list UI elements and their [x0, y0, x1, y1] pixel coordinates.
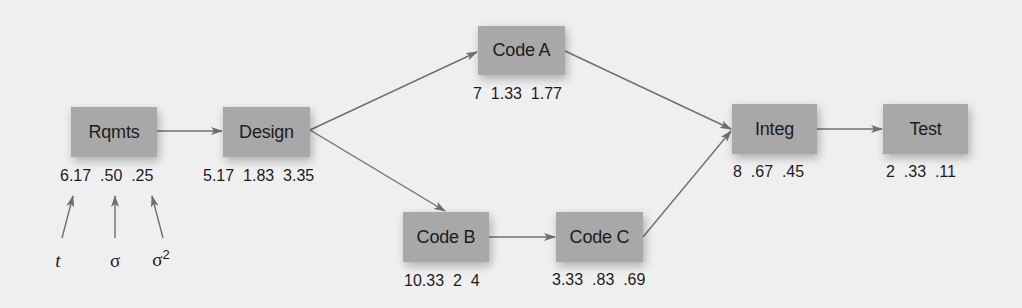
node-stats-code-b: 10.33 2 4	[404, 272, 480, 290]
variance-exponent: 2	[163, 247, 170, 262]
node-stats-test: 2 .33 .11	[886, 163, 956, 181]
edge-code-c-integ	[643, 131, 731, 237]
legend-variance-label: σ2	[152, 247, 169, 271]
legend-t-label: t	[55, 250, 60, 272]
edge-design-code-b	[310, 130, 445, 211]
node-stats-code-c: 3.33 .83 .69	[552, 271, 645, 289]
node-label: Code B	[417, 227, 476, 248]
node-code-c: Code C	[556, 212, 643, 262]
legend-arrow-variance	[152, 196, 163, 238]
edge-design-code-a	[310, 52, 477, 130]
node-label: Rqmts	[88, 122, 139, 143]
node-code-a: Code A	[478, 26, 565, 75]
node-label: Code C	[570, 227, 630, 248]
node-code-b: Code B	[403, 212, 489, 262]
legend-arrow-t	[62, 196, 73, 238]
node-label: Test	[909, 119, 941, 140]
node-test: Test	[883, 104, 968, 154]
node-stats-design: 5.17 1.83 3.35	[203, 167, 314, 185]
node-label: Code A	[493, 40, 551, 61]
activity-network-diagram: Rqmts 6.17 .50 .25 Design 5.17 1.83 3.35…	[0, 0, 1022, 308]
node-stats-rqmts: 6.17 .50 .25	[60, 167, 153, 185]
node-stats-integ: 8 .67 .45	[733, 163, 804, 181]
legend-sigma-label: σ	[110, 250, 120, 272]
node-label: Design	[239, 122, 294, 143]
edge-code-a-integ	[565, 51, 731, 129]
node-label: Integ	[755, 119, 794, 140]
node-stats-code-a: 7 1.33 1.77	[473, 85, 562, 103]
node-integ: Integ	[732, 104, 817, 154]
variance-base: σ	[152, 249, 162, 270]
node-design: Design	[223, 107, 310, 157]
node-rqmts: Rqmts	[71, 107, 157, 157]
